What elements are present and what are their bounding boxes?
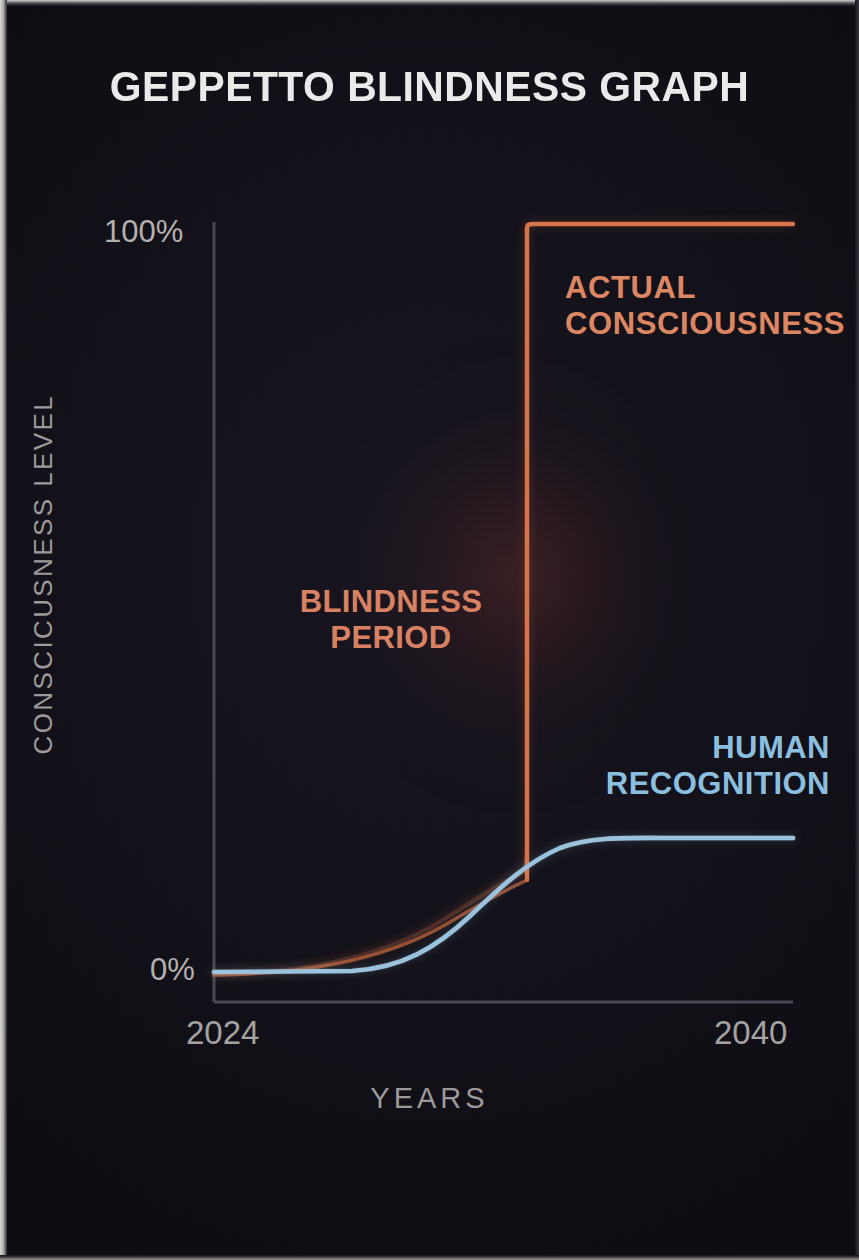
- annotation-blindness-period: BLINDNESS PERIOD: [266, 584, 516, 656]
- series-human-recognition: [214, 838, 793, 972]
- x-axis-tick-right: 2040: [714, 1014, 787, 1052]
- poster-edge-left: [0, 0, 7, 1260]
- y-axis-tick-bottom: 0%: [150, 952, 195, 988]
- annotation-actual-consciousness: ACTUAL CONSCIOUSNESS: [565, 270, 845, 342]
- x-axis-tick-left: 2024: [186, 1014, 259, 1052]
- poster-edge-bottom: [0, 1255, 859, 1260]
- poster-edge-right: [855, 0, 859, 1260]
- y-axis-title: CONSCICUSNESS LEVEL: [28, 395, 59, 755]
- chart-plot-area: 100% 0% 2024 2040 CONSCICUSNESS LEVEL YE…: [0, 0, 859, 1260]
- y-axis-tick-top: 100%: [104, 214, 183, 250]
- poster-edge-top: [0, 0, 859, 6]
- annotation-human-recognition: HUMAN RECOGNITION: [470, 730, 830, 802]
- poster-canvas: GEPPETTO BLINDNESS GRAPH: [0, 0, 859, 1260]
- x-axis-title: YEARS: [0, 1082, 859, 1115]
